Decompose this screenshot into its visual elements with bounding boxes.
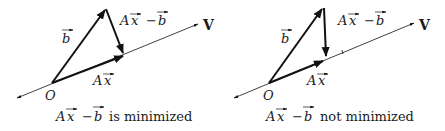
svg-text:−: − (292, 109, 303, 124)
label-ax: A x (92, 73, 114, 88)
svg-text:x: x (67, 109, 75, 124)
caption-not-minimized: A x − b not minimized (265, 107, 414, 124)
label-origin: O (45, 88, 56, 103)
svg-text:x: x (277, 109, 285, 124)
svg-text:b: b (62, 31, 70, 46)
svg-text:b: b (304, 109, 312, 124)
svg-text:x: x (131, 13, 139, 28)
svg-text:x: x (318, 73, 326, 88)
label-residual: A x − b (337, 12, 386, 28)
svg-text:A: A (55, 109, 65, 124)
svg-text:A: A (119, 13, 129, 28)
svg-text:−: − (364, 13, 375, 28)
label-ax: A x (306, 73, 328, 88)
diagram-canvas: b A x − b V A x O A x − b is minimized (0, 0, 445, 131)
panel-minimized: b A x − b V A x O A x − b is minimized (17, 9, 215, 124)
vector-residual (324, 8, 326, 56)
label-b: b (62, 30, 73, 46)
label-residual: A x − b (119, 12, 168, 28)
svg-text:is minimized: is minimized (109, 109, 192, 124)
label-origin: O (263, 88, 274, 103)
svg-text:A: A (265, 109, 275, 124)
tick-mark (342, 50, 343, 54)
label-v: V (202, 17, 215, 33)
svg-text:−: − (82, 109, 93, 124)
svg-text:x: x (104, 73, 112, 88)
svg-text:b: b (158, 13, 166, 28)
svg-text:A: A (337, 13, 347, 28)
svg-text:A: A (306, 73, 316, 88)
caption-minimized: A x − b is minimized (55, 107, 192, 124)
svg-text:x: x (349, 13, 357, 28)
label-v: V (418, 17, 431, 33)
svg-text:b: b (94, 109, 102, 124)
panel-not-minimized: b A x − b V A x O A x − b not minimized (234, 8, 431, 124)
svg-text:−: − (146, 13, 157, 28)
svg-text:A: A (92, 73, 102, 88)
svg-text:b: b (281, 31, 289, 46)
label-b: b (281, 30, 292, 46)
svg-text:b: b (376, 13, 384, 28)
svg-text:not minimized: not minimized (320, 109, 414, 124)
